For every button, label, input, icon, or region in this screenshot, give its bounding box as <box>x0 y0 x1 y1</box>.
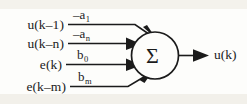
output-wire <box>179 49 209 61</box>
weight-subscript-2: n <box>86 33 90 43</box>
summation-symbol: Σ <box>146 45 159 67</box>
weight-subscript-4: m <box>85 76 92 86</box>
weight-label-3: b0 <box>77 48 88 61</box>
input-signal-label-1: u(k–1) <box>0 18 64 32</box>
input-signal-label-2: u(k–n) <box>0 37 64 51</box>
weight-subscript-1: 1 <box>86 14 90 24</box>
weight-label-2: –an <box>73 27 90 40</box>
arrowhead-output <box>193 49 209 61</box>
input-signal-label-4: e(k–m) <box>0 80 66 94</box>
diagram-canvas: Σ u(k–1) u(k–n) e(k) e(k–m) –a1 –an b0 b… <box>0 0 247 104</box>
weight-base-4: b <box>78 69 85 84</box>
input-signal-label-3: e(k) <box>0 58 62 72</box>
weight-label-4: bm <box>78 70 91 83</box>
weight-base-2: –a <box>73 26 85 41</box>
weight-base-1: –a <box>73 7 85 22</box>
weight-label-1: –a1 <box>73 8 90 21</box>
output-signal-label: u(k) <box>214 48 237 62</box>
weight-subscript-3: 0 <box>84 54 88 64</box>
weight-base-3: b <box>77 47 84 62</box>
